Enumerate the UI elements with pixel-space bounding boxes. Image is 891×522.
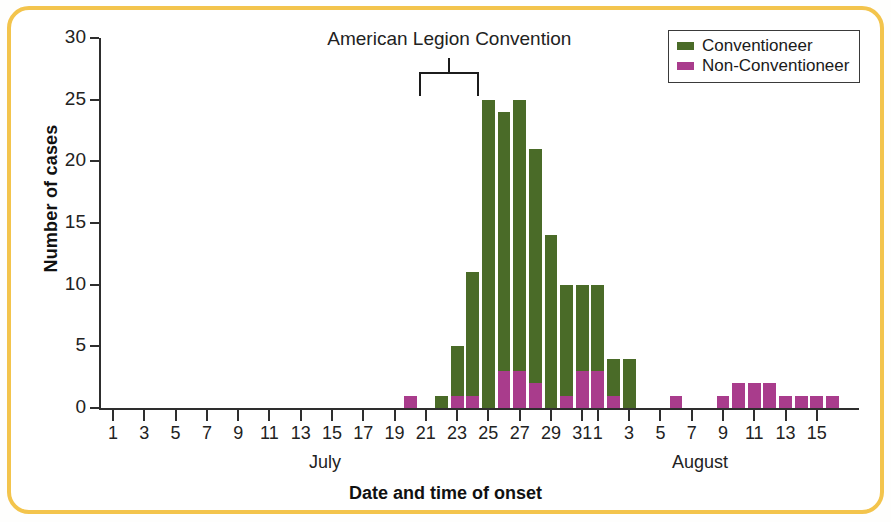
y-tick-label-5: 5	[42, 335, 86, 354]
x-tick-jul-5	[175, 410, 177, 421]
x-tick-jul-31	[581, 410, 583, 421]
bar-segment-non-conventioneer	[466, 396, 479, 408]
x-tick-aug-5	[659, 410, 661, 421]
x-tick-label-jul-7: 7	[192, 424, 222, 444]
x-tick-jul-23	[456, 410, 458, 421]
bar-segment-non-conventioneer	[826, 396, 839, 408]
bar-jul-27	[513, 100, 526, 408]
month-label-july: July	[280, 452, 370, 473]
x-tick-jul-27	[519, 410, 521, 421]
bar-aug-14	[795, 396, 808, 408]
convention-annotation-label: American Legion Convention	[294, 28, 604, 50]
bar-jul-24	[466, 272, 479, 408]
y-tick-20	[90, 160, 99, 162]
x-tick-jul-9	[237, 410, 239, 421]
y-tick-5	[90, 345, 99, 347]
month-label-august: August	[655, 452, 745, 473]
x-tick-label-aug-9: 9	[708, 424, 738, 444]
x-tick-aug-15	[816, 410, 818, 421]
bar-segment-non-conventioneer	[576, 371, 589, 408]
bar-segment-conventioneer	[591, 285, 604, 371]
bar-aug-1	[591, 285, 604, 408]
bar-segment-non-conventioneer	[748, 383, 761, 408]
bar-segment-non-conventioneer	[717, 396, 730, 408]
x-tick-label-jul-19: 19	[380, 424, 410, 444]
x-tick-label-aug-7: 7	[677, 424, 707, 444]
bar-jul-23	[451, 346, 464, 408]
bar-segment-conventioneer	[576, 285, 589, 371]
bar-segment-non-conventioneer	[591, 371, 604, 408]
legend-swatch-icon	[677, 62, 694, 70]
x-tick-label-aug-13: 13	[771, 424, 801, 444]
legend-label: Conventioneer	[702, 36, 813, 56]
bar-segment-conventioneer	[498, 112, 511, 371]
bar-aug-12	[763, 383, 776, 408]
bar-segment-conventioneer	[623, 359, 636, 408]
x-tick-jul-11	[268, 410, 270, 421]
y-tick-0	[90, 407, 99, 409]
bar-segment-conventioneer	[529, 149, 542, 383]
x-tick-label-aug-15: 15	[802, 424, 832, 444]
x-tick-aug-7	[691, 410, 693, 421]
annotation-bracket	[419, 72, 479, 96]
legend-item-non-conventioneer: Non-Conventioneer	[677, 56, 849, 76]
bar-segment-non-conventioneer	[498, 371, 511, 408]
bar-segment-non-conventioneer	[779, 396, 792, 408]
x-axis-line	[99, 408, 859, 410]
legend-swatch-icon	[677, 42, 694, 50]
x-tick-label-jul-21: 21	[411, 424, 441, 444]
x-tick-label-jul-27: 27	[505, 424, 535, 444]
x-tick-jul-19	[394, 410, 396, 421]
x-axis-title: Date and time of onset	[0, 483, 891, 504]
x-tick-label-jul-29: 29	[536, 424, 566, 444]
x-tick-jul-17	[362, 410, 364, 421]
x-tick-jul-21	[425, 410, 427, 421]
bar-jul-22	[435, 396, 448, 408]
x-tick-jul-13	[300, 410, 302, 421]
x-tick-aug-3	[628, 410, 630, 421]
bar-segment-non-conventioneer	[670, 396, 683, 408]
x-tick-jul-25	[487, 410, 489, 421]
bar-segment-non-conventioneer	[810, 396, 823, 408]
bar-jul-31	[576, 285, 589, 408]
bar-segment-non-conventioneer	[560, 396, 573, 408]
x-tick-label-jul-5: 5	[161, 424, 191, 444]
y-tick-label-20: 20	[42, 150, 86, 169]
legend-label: Non-Conventioneer	[702, 56, 849, 76]
x-tick-label-jul-3: 3	[129, 424, 159, 444]
bar-segment-conventioneer	[435, 396, 448, 408]
bar-segment-conventioneer	[466, 272, 479, 395]
bar-segment-conventioneer	[451, 346, 464, 395]
bar-jul-28	[529, 149, 542, 408]
bar-aug-6	[670, 396, 683, 408]
bar-segment-non-conventioneer	[795, 396, 808, 408]
x-tick-jul-29	[550, 410, 552, 421]
bar-segment-non-conventioneer	[732, 383, 745, 408]
bar-jul-26	[498, 112, 511, 408]
x-tick-label-jul-25: 25	[473, 424, 503, 444]
x-tick-label-jul-9: 9	[223, 424, 253, 444]
bar-segment-conventioneer	[560, 285, 573, 396]
bar-aug-2	[607, 359, 620, 408]
y-tick-label-10: 10	[42, 274, 86, 293]
plot-area: Number of cases Date and time of onset 0…	[0, 0, 891, 522]
bar-segment-non-conventioneer	[451, 396, 464, 408]
y-tick-10	[90, 284, 99, 286]
x-tick-label-aug-5: 5	[645, 424, 675, 444]
x-tick-label-jul-13: 13	[286, 424, 316, 444]
y-tick-25	[90, 99, 99, 101]
x-tick-label-jul-1: 1	[98, 424, 128, 444]
bar-segment-non-conventioneer	[763, 383, 776, 408]
x-tick-aug-1	[597, 410, 599, 421]
bar-aug-3	[623, 359, 636, 408]
x-tick-label-aug-1: 1	[583, 424, 613, 444]
bar-segment-non-conventioneer	[513, 371, 526, 408]
bar-segment-conventioneer	[607, 359, 620, 396]
x-tick-label-jul-11: 11	[254, 424, 284, 444]
legend-item-conventioneer: Conventioneer	[677, 36, 849, 56]
bar-segment-non-conventioneer	[607, 396, 620, 408]
y-axis-title: Number of cases	[41, 104, 62, 294]
bar-jul-30	[560, 285, 573, 408]
x-tick-label-aug-11: 11	[739, 424, 769, 444]
x-tick-label-jul-15: 15	[317, 424, 347, 444]
